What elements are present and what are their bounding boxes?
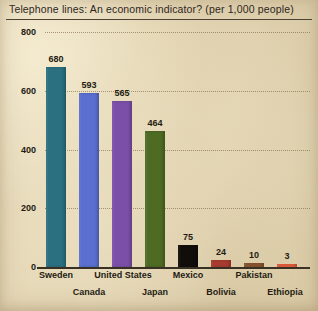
bar-fill-mexico xyxy=(178,245,198,267)
bar-japan[interactable]: 464 xyxy=(145,131,165,267)
bar-united-states[interactable]: 565 xyxy=(112,101,132,267)
category-label-sweden: Sweden xyxy=(39,270,73,280)
bar-canada[interactable]: 593 xyxy=(79,93,99,267)
category-label-canada: Canada xyxy=(73,287,106,297)
bar-value-japan: 464 xyxy=(147,118,162,128)
bar-fill-japan xyxy=(145,131,165,267)
bar-fill-canada xyxy=(79,93,99,267)
bar-fill-united-states xyxy=(112,101,132,267)
bar-value-united-states: 565 xyxy=(114,88,129,98)
bar-mexico[interactable]: 75 xyxy=(178,245,198,267)
bar-value-pakistan: 10 xyxy=(249,250,259,260)
category-label-united-states: United States xyxy=(94,270,152,280)
category-label-ethiopia: Ethiopia xyxy=(267,287,303,297)
category-label-bolivia: Bolivia xyxy=(206,287,236,297)
bar-value-canada: 593 xyxy=(81,80,96,90)
bar-value-mexico: 75 xyxy=(183,232,193,242)
category-label-mexico: Mexico xyxy=(173,270,204,280)
chart-title: Telephone lines: An economic indicator? … xyxy=(9,3,294,15)
bar-value-ethiopia: 3 xyxy=(284,251,289,261)
title-divider xyxy=(6,19,312,20)
bar-fill-sweden xyxy=(46,67,66,267)
title-area: Telephone lines: An economic indicator? … xyxy=(0,0,318,22)
chart-page: Telephone lines: An economic indicator? … xyxy=(0,0,318,311)
bar-value-bolivia: 24 xyxy=(216,247,226,257)
category-labels: Sweden Canada United States Japan Mexico… xyxy=(0,268,318,311)
bar-sweden[interactable]: 680 xyxy=(46,67,66,267)
bar-fill-bolivia xyxy=(211,260,231,267)
category-label-japan: Japan xyxy=(142,287,168,297)
bar-bolivia[interactable]: 24 xyxy=(211,260,231,267)
bar-value-sweden: 680 xyxy=(48,54,63,64)
category-label-pakistan: Pakistan xyxy=(235,270,272,280)
